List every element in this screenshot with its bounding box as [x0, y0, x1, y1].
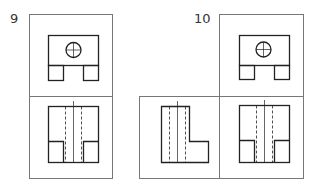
problem-10-side-frame — [140, 97, 220, 179]
problem-10 — [140, 15, 304, 179]
problem-10-top-frame — [220, 15, 304, 97]
problem-10-front-frame — [220, 97, 304, 179]
orthographic-drawings — [0, 0, 317, 187]
problem-10-side-view — [162, 101, 209, 163]
problem-9-top-view — [49, 36, 99, 81]
problem-10-top-view — [240, 36, 290, 80]
problem-9-top-frame — [30, 15, 113, 97]
problem-9-front-frame — [30, 97, 113, 179]
problem-10-front-view — [240, 100, 290, 163]
problem-9-front-view — [49, 101, 99, 163]
problem-9 — [30, 15, 113, 179]
